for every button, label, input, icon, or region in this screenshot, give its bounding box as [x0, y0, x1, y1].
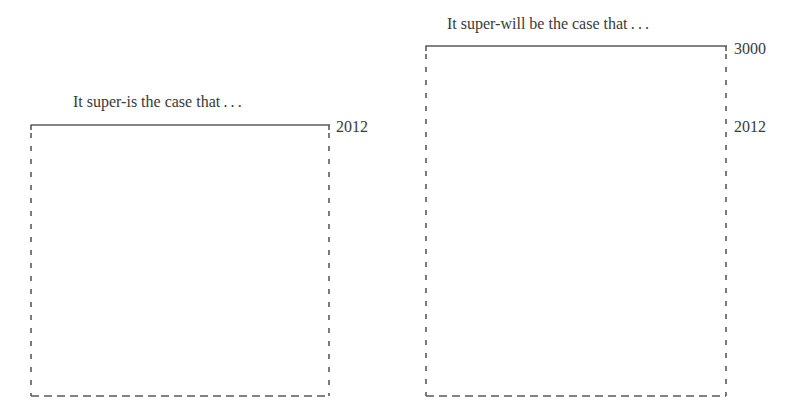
box-outline: [425, 45, 728, 398]
timeline-box-present: [30, 124, 331, 398]
time-label-3000-future: 3000: [734, 40, 766, 58]
timeline-box-future: [425, 45, 728, 398]
box-outline: [30, 124, 331, 398]
panel-title-present: It super-is the case that . . .: [73, 93, 242, 111]
time-label-2012-present: 2012: [336, 118, 368, 136]
time-label-2012-future: 2012: [734, 118, 766, 136]
panel-title-future: It super-will be the case that . . .: [447, 15, 649, 33]
tense-diagram: It super-is the case that . . . 2012 It …: [0, 0, 793, 419]
